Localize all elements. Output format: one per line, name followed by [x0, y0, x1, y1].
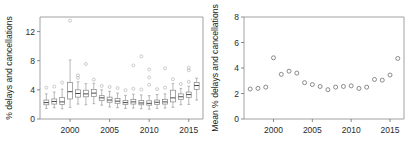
data-point — [264, 85, 268, 89]
y-tick-label: 4 — [234, 63, 239, 73]
boxplot-box — [178, 83, 183, 105]
boxplot-svg: 048122000200520102015% delays and cancel… — [0, 0, 209, 149]
outlier-point — [69, 19, 72, 22]
boxplot-box — [131, 64, 136, 108]
data-point — [334, 85, 338, 89]
y-tick-label: 6 — [234, 38, 239, 48]
data-point — [287, 69, 291, 73]
x-tick-label: 2015 — [179, 125, 198, 135]
boxplot-box — [44, 86, 49, 108]
outlier-point — [132, 64, 135, 67]
outlier-point — [140, 88, 143, 91]
outlier-point — [171, 78, 174, 81]
outlier-point — [53, 85, 56, 88]
boxplot-box — [115, 87, 120, 108]
box-iqr — [68, 83, 73, 99]
boxplot-box — [186, 66, 191, 104]
data-point — [310, 83, 314, 87]
data-point — [396, 56, 400, 60]
y-tick-label: 8 — [234, 12, 239, 22]
data-point — [372, 77, 376, 81]
data-point — [295, 71, 299, 75]
boxplot-box — [163, 67, 168, 108]
boxplot-box — [194, 78, 199, 100]
outlier-point — [148, 76, 151, 79]
box-iqr — [60, 98, 65, 105]
boxplot-box — [91, 78, 96, 104]
boxplot-box — [107, 85, 112, 107]
boxplot-box — [155, 88, 160, 109]
outlier-point — [116, 87, 119, 90]
outlier-point — [187, 80, 190, 83]
boxplot-box — [83, 62, 88, 104]
scatter-svg: 024682000200520102015Mean % delays and c… — [208, 0, 417, 149]
boxplot-box — [139, 55, 144, 109]
data-point — [349, 84, 353, 88]
x-tick-label: 2010 — [342, 125, 361, 135]
outlier-point — [61, 81, 64, 84]
outlier-point — [148, 83, 151, 86]
figure-root: 048122000200520102015% delays and cancel… — [0, 0, 417, 149]
outlier-point — [100, 84, 103, 87]
outlier-point — [124, 89, 127, 92]
data-point — [341, 84, 345, 88]
y-tick-label: 0 — [30, 114, 35, 124]
x-tick-label: 2000 — [264, 125, 283, 135]
y-axis-title: Mean % delays and cancellations — [210, 4, 220, 132]
outlier-point — [156, 88, 159, 91]
box-iqr — [170, 90, 175, 102]
outlier-point — [140, 55, 143, 58]
x-tick-label: 2005 — [303, 125, 322, 135]
boxplot-box — [170, 78, 175, 108]
boxplot-box — [60, 81, 65, 109]
data-point — [248, 87, 252, 91]
x-tick-label: 2010 — [140, 125, 159, 135]
data-point — [357, 86, 361, 90]
outlier-point — [108, 85, 111, 88]
outlier-point — [164, 86, 167, 89]
outlier-point — [92, 78, 95, 81]
data-point — [303, 81, 307, 85]
outlier-point — [132, 87, 135, 90]
plot-frame — [244, 17, 404, 119]
data-point — [318, 84, 322, 88]
outlier-point — [148, 68, 151, 71]
y-axis-title: % delays and cancellations — [4, 16, 14, 120]
boxplot-box — [76, 74, 81, 104]
y-tick-label: 8 — [30, 56, 35, 66]
y-tick-label: 0 — [234, 114, 239, 124]
boxplot-box — [147, 68, 152, 109]
boxplot-box — [123, 89, 128, 109]
data-point — [326, 88, 330, 92]
data-point — [272, 56, 276, 60]
outlier-point — [164, 67, 167, 70]
x-tick-label: 2015 — [381, 125, 400, 135]
x-tick-label: 2005 — [100, 125, 119, 135]
outlier-point — [179, 83, 182, 86]
boxplot-box — [99, 84, 104, 105]
outlier-point — [45, 86, 48, 89]
data-point — [365, 85, 369, 89]
y-tick-label: 4 — [30, 85, 35, 95]
x-tick-label: 2000 — [61, 125, 80, 135]
boxplot-box — [52, 85, 57, 108]
data-point — [256, 86, 260, 90]
boxplot-box — [68, 19, 73, 107]
data-point — [380, 78, 384, 82]
panel-scatter: 024682000200520102015Mean % delays and c… — [208, 0, 417, 149]
y-tick-label: 2 — [234, 89, 239, 99]
data-point — [388, 73, 392, 77]
data-point — [279, 72, 283, 76]
box-iqr — [194, 83, 199, 90]
panel-boxplot: 048122000200520102015% delays and cancel… — [0, 0, 209, 149]
outlier-point — [84, 62, 87, 65]
y-tick-label: 12 — [26, 27, 36, 37]
